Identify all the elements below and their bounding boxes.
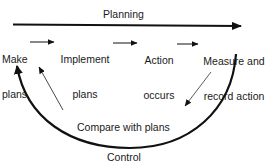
node-measure-record: Measure and record action — [200, 33, 268, 125]
control-label: Control — [107, 152, 141, 164]
node-action-occurs-line2: occurs — [141, 90, 177, 102]
node-make-plans-line2: plans — [2, 89, 28, 101]
node-implement-plans: Implement plans — [59, 31, 111, 123]
node-action-occurs-line1: Action — [141, 55, 177, 67]
node-implement-plans-line2: plans — [59, 89, 111, 101]
node-make-plans-line1: Make — [2, 54, 28, 66]
planning-arrow — [13, 25, 241, 27]
node-measure-record-line1: Measure and — [200, 56, 268, 68]
planning-label: Planning — [103, 9, 144, 21]
node-make-plans: Make plans — [2, 31, 28, 123]
node-action-occurs: Action occurs — [141, 32, 177, 124]
node-measure-record-line2: record action — [200, 91, 268, 103]
control-loop-diagram: Planning Make plans Implement plans Acti… — [0, 0, 268, 164]
node-implement-plans-line1: Implement — [59, 54, 111, 66]
compare-with-plans-label: Compare with plans — [77, 122, 170, 134]
